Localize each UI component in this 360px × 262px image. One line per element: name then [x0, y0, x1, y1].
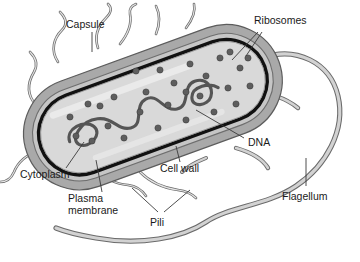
- label-cytoplasm: Cytoplasm: [20, 168, 70, 180]
- label-plasma-membrane-line2: membrane: [68, 204, 118, 216]
- bacterial-cell-diagram: Capsule Ribosomes DNA Cytoplasm Plasma m…: [0, 0, 360, 262]
- label-cell-wall: Cell wall: [160, 162, 199, 174]
- label-flagellum: Flagellum: [282, 190, 328, 202]
- label-pili: Pili: [150, 216, 164, 228]
- label-ribosomes: Ribosomes: [254, 14, 307, 26]
- label-plasma-membrane-line1: Plasma: [68, 192, 103, 204]
- label-capsule: Capsule: [66, 18, 105, 30]
- label-dna: DNA: [248, 136, 270, 148]
